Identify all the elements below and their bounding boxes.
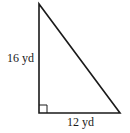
right-angle-marker <box>39 105 47 113</box>
right-triangle <box>39 4 120 113</box>
vertical-leg-label: 16 yd <box>7 51 34 65</box>
horizontal-leg-label: 12 yd <box>67 115 94 129</box>
triangle-diagram: 16 yd 12 yd <box>0 0 130 133</box>
